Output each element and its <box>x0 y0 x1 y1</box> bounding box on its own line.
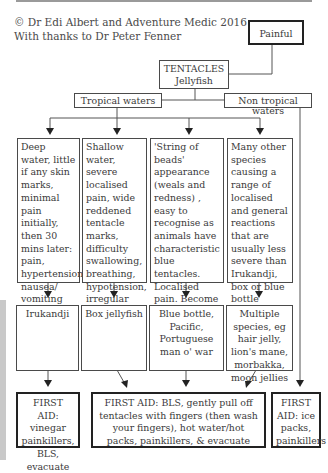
species-multiple-species-text: Multiple species, eg hair jelly, lion's … <box>231 308 288 383</box>
first-aid-non-tropical-text: FIRST AID: ice packs, painkillers <box>276 397 326 446</box>
species-multiple-species: Multiple species, eg hair jelly, lion's … <box>226 305 293 371</box>
species-irukandji-text: Irukandji <box>26 308 69 319</box>
node-tentacles-line2: Jellyfish <box>163 75 225 87</box>
species-blue-bottle-text: Blue bottle, Pacific, Portuguese man o' … <box>159 308 214 357</box>
node-tentacles: TENTACLES Jellyfish <box>159 60 229 89</box>
symptoms-box-jellyfish: Shallow water, severe localised pain, wi… <box>82 138 147 283</box>
symptoms-multiple-species-text: Many other species causing a range of lo… <box>231 141 288 317</box>
node-tropical-waters: Tropical waters <box>74 93 162 108</box>
first-aid-non-tropical: FIRST AID: ice packs, painkillers <box>271 392 321 448</box>
node-non-tropical-waters: Non tropical waters <box>224 93 312 108</box>
node-tentacles-line1: TENTACLES <box>163 63 225 75</box>
first-aid-irukandji: FIRST AID: vinegar painkillers, BLS, eva… <box>16 392 80 448</box>
first-aid-general-text: FIRST AID: BLS, gently pull off tentacle… <box>99 397 258 446</box>
first-aid-general: FIRST AID: BLS, gently pull off tentacle… <box>91 392 266 448</box>
species-box-jellyfish: Box jellyfish <box>81 305 147 371</box>
node-painful-label: Painful <box>259 28 292 39</box>
node-painful: Painful <box>248 20 304 45</box>
symptoms-multiple-species: Many other species causing a range of lo… <box>227 138 293 283</box>
first-aid-irukandji-text: FIRST AID: vinegar painkillers, BLS, eva… <box>21 397 74 472</box>
symptoms-irukandji: Deep water, little if any skin marks, mi… <box>17 138 80 283</box>
species-irukandji: Irukandji <box>16 305 79 371</box>
species-blue-bottle: Blue bottle, Pacific, Portuguese man o' … <box>149 305 224 371</box>
node-tropical-waters-label: Tropical waters <box>81 95 155 106</box>
symptoms-box-jellyfish-text: Shallow water, severe localised pain, wi… <box>86 141 147 317</box>
species-box-jellyfish-text: Box jellyfish <box>85 308 143 319</box>
symptoms-blue-bottle: 'String of beads' appearance (weals and … <box>150 138 224 283</box>
symptoms-irukandji-text: Deep water, little if any skin marks, mi… <box>21 141 86 304</box>
